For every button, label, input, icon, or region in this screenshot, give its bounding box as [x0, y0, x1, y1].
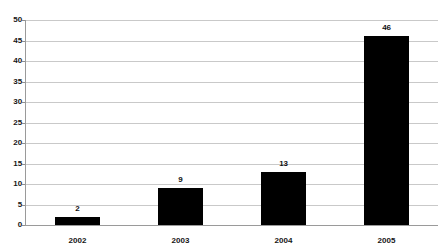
plot-area — [26, 20, 438, 225]
y-axis-tick-label: 30 — [0, 98, 22, 106]
bar-value-label: 46 — [367, 24, 407, 32]
y-axis-tick-mark — [22, 205, 25, 206]
y-axis-tick-mark — [22, 102, 25, 103]
y-axis-tick-label: 50 — [0, 16, 22, 24]
y-axis-tick-mark — [22, 123, 25, 124]
bar — [364, 36, 409, 225]
bar-value-label: 2 — [58, 205, 98, 213]
x-axis-category-label: 2002 — [53, 236, 103, 245]
y-axis-tick-label: 5 — [0, 201, 22, 209]
bar-chart: 05101520253035404550 291346 200220032004… — [0, 0, 445, 251]
y-axis-tick-mark — [22, 82, 25, 83]
y-axis-tick-label: 45 — [0, 37, 22, 45]
bar — [55, 217, 100, 225]
x-axis-category-label: 2004 — [259, 236, 309, 245]
y-axis-tick-mark — [22, 41, 25, 42]
y-axis-tick-label: 25 — [0, 119, 22, 127]
gridline — [26, 20, 438, 21]
y-axis-tick-mark — [22, 225, 25, 226]
y-axis-tick-label: 40 — [0, 57, 22, 65]
y-axis-tick-label: 15 — [0, 160, 22, 168]
y-axis-tick-mark — [22, 61, 25, 62]
y-axis-tick-label: 0 — [0, 221, 22, 229]
x-axis-category-label: 2005 — [362, 236, 412, 245]
y-axis-tick-label: 10 — [0, 180, 22, 188]
x-axis-category-label: 2003 — [156, 236, 206, 245]
y-axis-tick-label: 20 — [0, 139, 22, 147]
y-axis-tick-label: 35 — [0, 78, 22, 86]
y-axis-tick-mark — [22, 20, 25, 21]
y-axis-tick-labels: 05101520253035404550 — [0, 0, 22, 251]
y-axis-tick-mark — [22, 184, 25, 185]
gridline — [26, 225, 438, 226]
y-axis-tick-mark — [22, 143, 25, 144]
bar — [261, 172, 306, 225]
bar-value-label: 13 — [264, 160, 304, 168]
bar — [158, 188, 203, 225]
bar-value-label: 9 — [161, 176, 201, 184]
y-axis-tick-mark — [22, 164, 25, 165]
